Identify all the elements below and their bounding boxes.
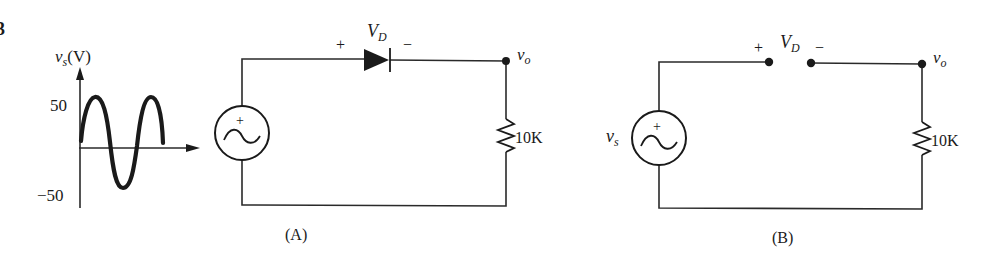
tick-positive-50: 50 xyxy=(50,96,67,115)
x-axis-arrow-icon xyxy=(186,144,200,152)
output-node-a xyxy=(502,57,510,65)
resistor-b-value: 10K xyxy=(931,132,959,149)
diode-icon xyxy=(364,49,389,71)
circuit-figure: 3 vs(V) 50 −50 + + − VD xyxy=(0,0,995,258)
output-label-a: vo xyxy=(517,45,531,67)
wire-b-top-left xyxy=(659,62,769,111)
sine-symbol-icon xyxy=(224,130,260,143)
output-label-b: vo xyxy=(933,48,947,70)
output-node-b xyxy=(918,60,926,68)
caption-a: (A) xyxy=(285,226,307,244)
diode-voltage-label: VD xyxy=(367,21,387,44)
terminal-plus-node xyxy=(765,58,773,66)
caption-b: (B) xyxy=(772,229,793,247)
wire-a-bottom xyxy=(242,152,506,206)
y-axis-arrow-icon xyxy=(76,67,84,80)
wire-a-top-left xyxy=(242,59,364,106)
waveform-y-label: vs(V) xyxy=(55,47,91,69)
source-b-label: vs xyxy=(606,126,619,149)
diode-minus-sign: − xyxy=(403,36,412,53)
resistor-a-value: 10K xyxy=(515,129,543,146)
wire-b-bottom xyxy=(659,155,922,209)
tick-negative-50: −50 xyxy=(37,186,64,205)
problem-number: 3 xyxy=(0,19,5,39)
wire-a-top-right xyxy=(390,60,506,61)
diode-plus-sign: + xyxy=(336,36,345,53)
circuit-a: + + − VD vo 10K (A) xyxy=(215,21,543,244)
source-b-plus: + xyxy=(653,119,661,134)
gap-voltage-label: VD xyxy=(780,32,800,55)
resistor-icon xyxy=(914,122,930,155)
wire-b-top-right xyxy=(811,63,922,64)
terminal-minus-node xyxy=(807,59,815,67)
circuit-b: + vs + − VD vo 10K (B) xyxy=(606,32,959,247)
source-a-plus: + xyxy=(236,113,244,128)
sine-waveform xyxy=(81,97,163,188)
gap-minus-sign: − xyxy=(815,39,824,56)
gap-plus-sign: + xyxy=(754,39,763,56)
waveform-plot: vs(V) 50 −50 xyxy=(37,47,200,208)
resistor-icon xyxy=(498,119,514,152)
sine-symbol-icon xyxy=(641,136,677,149)
